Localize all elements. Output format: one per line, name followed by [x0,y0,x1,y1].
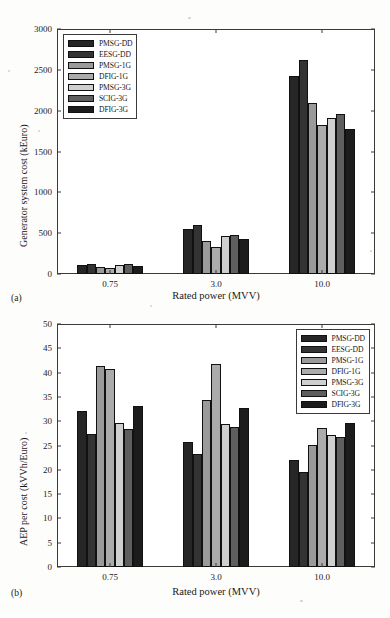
x-tick-label: 0.75 [102,274,118,289]
bar-pmsg-1g-10.0 [308,445,317,567]
bar-eesg-dd-3.0 [193,454,202,567]
plot-area-a: PMSG-DDEESG-DDPMSG-1GDFIG-1GPMSG-3GSCIG-… [57,29,375,274]
legend-item-pmsg-dd[interactable]: PMSG-DD [68,38,132,49]
figure-panel-a: Generator system cost (kEuro) PMSG-DDEES… [0,0,390,310]
legend-item-label: PMSG-3G [99,84,131,92]
bar-pmsg-1g-0.75 [96,366,105,567]
y-tick-mark [371,151,375,152]
legend-item-scig-3g[interactable]: SCIG-3G [68,93,132,104]
bar-pmsg-1g-10.0 [308,103,317,274]
legend-item-label: EESG-DD [332,346,364,354]
x-tick-mark [322,29,323,33]
y-tick-mark [371,69,375,70]
legend-swatch-icon [301,401,327,408]
legend-item-dfig-1g[interactable]: DFIG-1G [68,71,132,82]
legend-item-scig-3g[interactable]: SCIG-3G [301,388,365,399]
legend-item-label: PMSG-1G [99,62,131,70]
x-tick-label: 10.0 [314,274,330,289]
bar-scig-3g-0.75 [124,264,133,274]
panel-tag-b: (b) [11,588,22,598]
y-tick-mark [57,324,61,325]
y-tick-mark [57,110,61,111]
legend-item-label: PMSG-DD [332,335,365,343]
bar-eesg-dd-10.0 [299,472,308,567]
y-tick-mark [57,494,61,495]
legend-item-eesg-dd[interactable]: EESG-DD [68,49,132,60]
x-tick-mark [322,324,323,328]
bar-pmsg-1g-3.0 [202,400,211,567]
legend-item-label: PMSG-1G [332,357,364,365]
y-tick-mark [57,372,61,373]
y-tick-mark [371,494,375,495]
legend-item-dfig-1g[interactable]: DFIG-1G [301,366,365,377]
y-tick-label: 25 [43,441,57,450]
x-tick-mark [110,29,111,33]
legend-item-dfig-3g[interactable]: DFIG-3G [301,399,365,410]
x-tick-mark [110,563,111,567]
bar-scig-3g-10.0 [336,114,345,274]
y-tick-label: 1500 [34,147,57,156]
legend-item-pmsg-3g[interactable]: PMSG-3G [68,82,132,93]
y-tick-label: 0 [48,563,58,572]
y-tick-label: 50 [43,320,57,329]
scan-artifact [300,600,303,602]
figure-page: Generator system cost (kEuro) PMSG-DDEES… [0,0,390,618]
legend-item-pmsg-3g[interactable]: PMSG-3G [301,377,365,388]
x-tick-label: 3.0 [210,274,221,289]
bar-eesg-dd-10.0 [299,60,308,274]
y-tick-label: 2500 [34,65,57,74]
y-tick-mark [371,274,375,275]
y-tick-mark [57,542,61,543]
y-tick-label: 0 [48,270,58,279]
y-tick-mark [371,348,375,349]
y-tick-label: 1000 [34,188,57,197]
y-tick-mark [57,396,61,397]
y-tick-label: 30 [43,417,57,426]
bar-dfig-1g-10.0 [317,428,326,567]
bar-pmsg-dd-10.0 [289,76,298,274]
bar-pmsg-dd-3.0 [183,442,192,567]
legend-swatch-icon [68,106,94,113]
y-tick-label: 2000 [34,106,57,115]
legend-swatch-icon [68,51,94,58]
y-tick-label: 40 [43,368,57,377]
y-tick-mark [371,469,375,470]
y-tick-label: 500 [39,229,58,238]
legend-item-eesg-dd[interactable]: EESG-DD [301,344,365,355]
legend-item-label: EESG-DD [99,51,131,59]
legend-item-label: SCIG-3G [332,390,360,398]
legend-item-pmsg-1g[interactable]: PMSG-1G [68,60,132,71]
bar-dfig-3g-3.0 [239,239,248,274]
y-tick-mark [371,518,375,519]
x-tick-mark [216,563,217,567]
x-tick-mark [216,324,217,328]
legend-swatch-icon [68,73,94,80]
legend-item-label: DFIG-3G [99,106,128,114]
x-tick-mark [322,270,323,274]
bar-scig-3g-10.0 [336,437,345,567]
bar-dfig-3g-3.0 [239,408,248,567]
legend-swatch-icon [301,390,327,397]
y-tick-mark [371,110,375,111]
x-tick-mark [110,324,111,328]
y-tick-label: 20 [43,465,57,474]
bar-dfig-1g-0.75 [105,369,114,567]
y-tick-label: 35 [43,392,57,401]
legend-item-label: PMSG-DD [99,40,132,48]
bar-pmsg-dd-0.75 [77,265,86,274]
bar-scig-3g-0.75 [124,429,133,567]
x-tick-mark [322,563,323,567]
bar-dfig-3g-10.0 [345,129,354,274]
bar-dfig-1g-10.0 [317,125,326,274]
panel-tag-a: (a) [11,293,22,303]
bar-pmsg-3g-0.75 [115,423,124,567]
bar-pmsg-dd-10.0 [289,460,298,567]
legend-swatch-icon [301,368,327,375]
x-tick-label: 3.0 [210,567,221,582]
legend-item-pmsg-dd[interactable]: PMSG-DD [301,333,365,344]
bar-eesg-dd-0.75 [87,264,96,274]
bar-dfig-1g-3.0 [211,364,220,567]
legend-item-dfig-3g[interactable]: DFIG-3G [68,104,132,115]
scan-artifact [188,17,191,19]
legend-item-pmsg-1g[interactable]: PMSG-1G [301,355,365,366]
